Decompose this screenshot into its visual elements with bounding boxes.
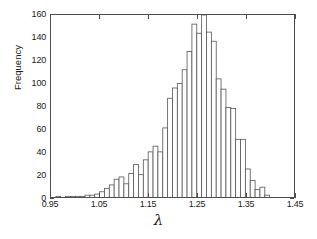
x-tick-mark-top [295,14,296,19]
x-tick-mark [148,193,149,198]
x-tick-label: 0.95 [42,200,59,209]
x-tick-label: 1.05 [91,200,108,209]
x-tick-mark-top [148,14,149,19]
x-tick-label: 1.15 [140,200,157,209]
x-tick-label: 1.35 [238,200,255,209]
x-tick-mark-top [246,14,247,19]
x-tick-mark-top [50,14,51,19]
x-tick-mark [99,193,100,198]
x-tick-label: 1.25 [189,200,206,209]
x-tick-mark [246,193,247,198]
x-tick-mark [50,193,51,198]
x-tick-label: 1.45 [287,200,304,209]
x-tick-mark-top [197,14,198,19]
x-tick-mark-top [99,14,100,19]
x-axis-title: λ [0,211,317,229]
x-tick-mark [197,193,198,198]
x-axis-ticks: 0.951.051.151.251.351.45 [0,0,317,239]
x-tick-mark [295,193,296,198]
histogram-figure: Frequency 020406080100120140160 0.951.05… [0,0,317,239]
